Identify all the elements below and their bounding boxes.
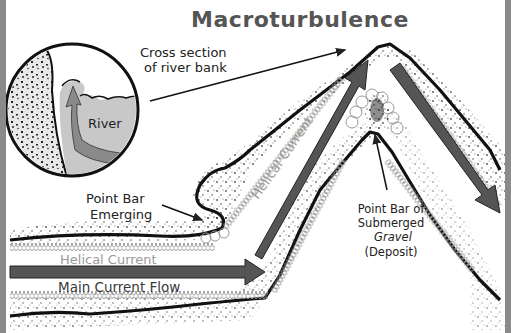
cross-section-inset: River — [0, 44, 140, 180]
helical-current-label-horizontal: Helical Current — [60, 252, 157, 267]
river-label: River — [88, 116, 122, 131]
point-bar-submerged-label-line1: Point Bar of — [358, 202, 426, 216]
main-current-flow-label: Main Current Flow — [58, 279, 180, 295]
emerging-point-bar — [201, 210, 229, 226]
point-bar-submerged-label-line2: Submerged — [358, 216, 424, 230]
point-bar-emerging-label-line1: Point Bar — [86, 191, 145, 206]
diagram-title: Macroturbulence — [191, 7, 409, 32]
point-bar-submerged-label-line4: (Deposit) — [365, 245, 418, 259]
diagram-frame: Macroturbulence — [0, 0, 511, 333]
cross-section-label-line2: of river bank — [144, 60, 227, 75]
macroturbulence-diagram: Macroturbulence — [0, 0, 511, 333]
point-bar-emerging-label-line2: Emerging — [90, 207, 152, 222]
point-bar-emerging-pointer — [162, 205, 202, 220]
point-bar-submerged-label-line3: Gravel — [374, 230, 413, 244]
cross-section-label-line1: Cross section — [140, 45, 227, 60]
